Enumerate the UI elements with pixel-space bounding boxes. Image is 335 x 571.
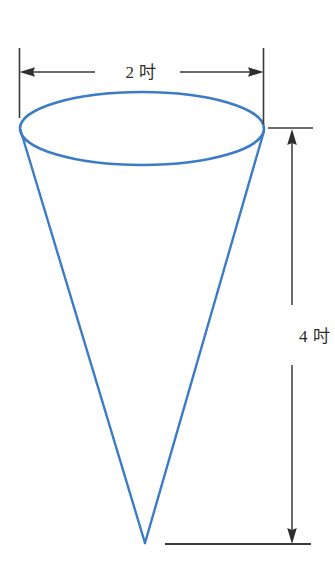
diameter-left-arrowhead-icon	[20, 67, 36, 77]
height-up-arrowhead-icon	[287, 129, 297, 145]
diameter-label: 2 吋	[125, 63, 156, 82]
cone-shape	[20, 92, 264, 543]
cone-left-slant-line	[21, 130, 146, 543]
height-down-arrowhead-icon	[287, 528, 297, 544]
cone-diagram-figure: 2 吋 4 吋	[0, 0, 335, 571]
height-label: 4 吋	[299, 327, 330, 346]
cone-top-ellipse	[20, 92, 264, 165]
cone-right-slant-line	[145, 131, 264, 543]
diameter-dimension-group: 2 吋	[20, 48, 264, 124]
diameter-right-arrowhead-icon	[248, 67, 264, 77]
figure-canvas: 2 吋 4 吋	[0, 0, 335, 571]
